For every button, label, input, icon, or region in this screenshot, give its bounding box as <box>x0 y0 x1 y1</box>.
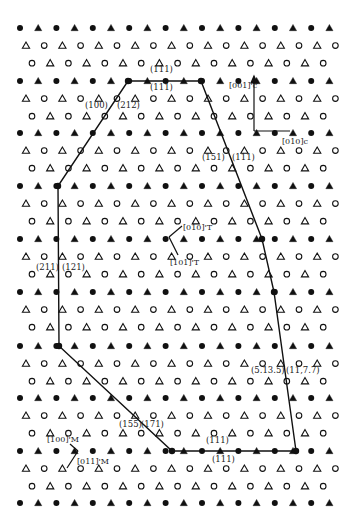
label-151: (151) <box>202 152 225 162</box>
filled-circle-atom <box>308 25 314 31</box>
open-circle-atom <box>175 113 181 119</box>
open-circle-atom <box>41 201 47 207</box>
filled-triangle-atom <box>144 129 151 135</box>
open-circle-atom <box>138 378 144 384</box>
open-circle-atom <box>333 96 339 102</box>
filled-triangle-atom <box>180 235 187 241</box>
open-triangle-atom <box>314 465 321 471</box>
polygon-vertex <box>293 448 299 454</box>
filled-triangle-atom <box>107 342 114 348</box>
open-triangle-atom <box>265 218 272 224</box>
filled-circle-atom <box>90 236 96 242</box>
filled-circle-atom <box>163 236 169 242</box>
open-circle-atom <box>151 254 157 260</box>
filled-circle-atom <box>163 395 169 401</box>
open-circle-atom <box>78 466 84 472</box>
open-circle-atom <box>187 307 193 313</box>
filled-triangle-atom <box>144 24 151 30</box>
filled-triangle-atom <box>217 182 224 188</box>
open-triangle-atom <box>277 200 284 206</box>
open-circle-atom <box>320 378 326 384</box>
filled-triangle-atom <box>35 235 42 241</box>
filled-triangle-atom <box>71 342 78 348</box>
open-circle-atom <box>248 165 254 171</box>
filled-circle-atom <box>235 130 241 136</box>
filled-triangle-atom <box>107 499 114 505</box>
open-circle-atom <box>175 60 181 66</box>
open-circle-atom <box>260 43 266 49</box>
open-triangle-atom <box>119 324 126 330</box>
open-triangle-atom <box>59 465 66 471</box>
filled-triangle-atom <box>107 182 114 188</box>
filled-circle-atom <box>272 395 278 401</box>
open-circle-atom <box>29 378 35 384</box>
open-circle-atom <box>296 466 302 472</box>
open-triangle-atom <box>277 465 284 471</box>
open-triangle-atom <box>132 253 139 259</box>
open-triangle-atom <box>132 42 139 48</box>
open-circle-atom <box>114 254 120 260</box>
open-triangle-atom <box>277 95 284 101</box>
open-circle-atom <box>223 466 229 472</box>
open-circle-atom <box>333 466 339 472</box>
open-triangle-atom <box>59 360 66 366</box>
open-circle-atom <box>175 218 181 224</box>
open-circle-atom <box>320 483 326 489</box>
open-circle-atom <box>151 361 157 367</box>
open-circle-atom <box>114 43 120 49</box>
filled-triangle-atom <box>326 77 333 83</box>
label-111-bot-b: (111) <box>212 454 235 464</box>
open-triangle-atom <box>95 360 102 366</box>
filled-triangle-atom <box>326 235 333 241</box>
filled-circle-atom <box>17 130 23 136</box>
open-triangle-atom <box>119 483 126 489</box>
filled-triangle-atom <box>326 342 333 348</box>
filled-circle-atom <box>17 183 23 189</box>
filled-triangle-atom <box>180 129 187 135</box>
open-triangle-atom <box>168 95 175 101</box>
vector-010t <box>169 226 182 237</box>
open-circle-atom <box>102 430 108 436</box>
open-circle-atom <box>296 43 302 49</box>
open-triangle-atom <box>229 218 236 224</box>
open-triangle-atom <box>314 412 321 418</box>
open-triangle-atom <box>265 483 272 489</box>
open-circle-atom <box>78 43 84 49</box>
filled-triangle-atom <box>217 499 224 505</box>
polygon-vertex <box>125 78 131 84</box>
open-triangle-atom <box>241 95 248 101</box>
label-171: (171) <box>141 419 164 429</box>
open-triangle-atom <box>301 271 308 277</box>
open-triangle-atom <box>156 324 163 330</box>
open-circle-atom <box>29 324 35 330</box>
open-circle-atom <box>296 96 302 102</box>
filled-circle-atom <box>90 343 96 349</box>
open-triangle-atom <box>265 165 272 171</box>
open-triangle-atom <box>265 60 272 66</box>
open-triangle-atom <box>156 378 163 384</box>
filled-circle-atom <box>17 78 23 84</box>
filled-circle-atom <box>90 183 96 189</box>
open-triangle-atom <box>241 360 248 366</box>
open-triangle-atom <box>265 113 272 119</box>
open-triangle-atom <box>277 147 284 153</box>
open-circle-atom <box>66 60 72 66</box>
filled-circle-atom <box>199 343 205 349</box>
lattice-diagram: (111) (111) (100) (212) (151) (111) (211… <box>0 0 353 525</box>
filled-circle-atom <box>199 500 205 506</box>
open-circle-atom <box>66 483 72 489</box>
open-triangle-atom <box>156 430 163 436</box>
label-010c: [010]c <box>282 137 309 146</box>
open-circle-atom <box>333 201 339 207</box>
open-triangle-atom <box>192 271 199 277</box>
filled-circle-atom <box>90 25 96 31</box>
open-circle-atom <box>175 271 181 277</box>
filled-circle-atom <box>53 448 59 454</box>
open-circle-atom <box>41 148 47 154</box>
vector-set-t <box>169 226 182 255</box>
open-triangle-atom <box>22 465 29 471</box>
open-circle-atom <box>296 254 302 260</box>
filled-triangle-atom <box>71 182 78 188</box>
open-triangle-atom <box>204 412 211 418</box>
open-circle-atom <box>320 271 326 277</box>
